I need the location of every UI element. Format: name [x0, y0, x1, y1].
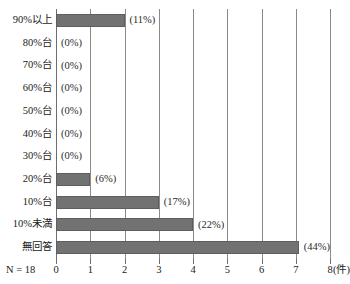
bar	[56, 218, 193, 231]
bar	[56, 173, 90, 186]
bar-chart: 90%以上80%台70%台60%台50%台40%台30%台20%台10%台10%…	[0, 0, 350, 284]
bar-value-label: (0%)	[56, 129, 82, 140]
plot-area: (11%)(0%)(0%)(0%)(0%)(0%)(0%)(6%)(17%)(2…	[56, 9, 330, 259]
bar-value-label: (44%)	[299, 242, 330, 253]
x-tick-label: 7	[293, 265, 298, 276]
category-label: 60%台	[0, 83, 52, 94]
bar	[56, 241, 299, 254]
bar-row: (0%)	[56, 123, 330, 146]
bar-value-label: (22%)	[193, 220, 224, 231]
bar-row: (0%)	[56, 77, 330, 100]
bar-value-label: (6%)	[90, 174, 116, 185]
bar-value-label: (0%)	[56, 106, 82, 117]
x-tick-label: 5	[225, 265, 230, 276]
bar-value-label: (17%)	[159, 197, 190, 208]
x-tick-label: 4	[190, 265, 195, 276]
bar-row: (17%)	[56, 191, 330, 214]
bar-row: (0%)	[56, 100, 330, 123]
x-tick-label: 1	[88, 265, 93, 276]
category-label: 90%以上	[0, 15, 52, 26]
x-tick-label: 0	[53, 265, 58, 276]
x-axis-unit-label: (件)	[333, 265, 350, 276]
bar-value-label: (0%)	[56, 83, 82, 94]
category-label: 80%台	[0, 38, 52, 49]
bar-row: (22%)	[56, 214, 330, 237]
bar-row: (0%)	[56, 32, 330, 55]
bar-value-label: (0%)	[56, 151, 82, 162]
category-label: 無回答	[0, 242, 52, 253]
gridline-8	[330, 9, 331, 259]
bar-row: (0%)	[56, 54, 330, 77]
bar-row: (44%)	[56, 236, 330, 259]
category-label: 10%未満	[0, 219, 52, 230]
category-label: 50%台	[0, 106, 52, 117]
bar-row: (11%)	[56, 9, 330, 32]
x-axis: 012345678	[56, 259, 330, 284]
category-label: 70%台	[0, 60, 52, 71]
bar-row: (0%)	[56, 145, 330, 168]
x-tick-label: 2	[122, 265, 127, 276]
x-tick-label: 6	[259, 265, 264, 276]
category-label: 30%台	[0, 151, 52, 162]
bar-value-label: (0%)	[56, 61, 82, 72]
bar-row: (6%)	[56, 168, 330, 191]
x-tick-label: 3	[156, 265, 161, 276]
bar-value-label: (11%)	[125, 15, 156, 26]
bar	[56, 14, 125, 27]
category-label: 20%台	[0, 174, 52, 185]
category-label: 40%台	[0, 129, 52, 140]
x-tick-label: 8	[327, 265, 332, 276]
bar	[56, 196, 159, 209]
category-label: 10%台	[0, 197, 52, 208]
bar-value-label: (0%)	[56, 38, 82, 49]
sample-size-label: N = 18	[6, 265, 35, 276]
category-axis: 90%以上80%台70%台60%台50%台40%台30%台20%台10%台10%…	[0, 9, 52, 259]
